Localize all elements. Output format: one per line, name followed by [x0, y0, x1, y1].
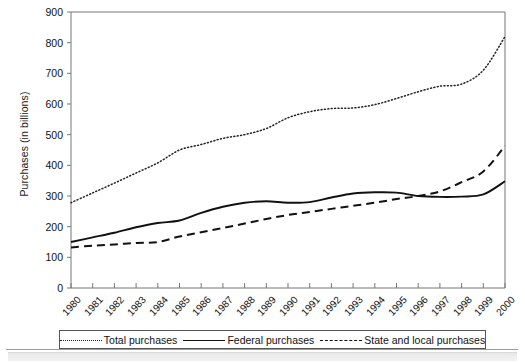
chart-legend: Total purchases Federal purchases State …	[59, 330, 486, 349]
legend-label-total: Total purchases	[104, 334, 180, 346]
legend-item-total: Total purchases	[58, 334, 180, 346]
chart-figure: Purchases (in billions) 9008007006005004…	[0, 0, 525, 362]
bottom-rule	[6, 349, 518, 350]
y-axis-ticks	[67, 12, 71, 288]
legend-item-state-local: State and local purchases	[318, 334, 487, 346]
bottom-gray-bar	[8, 352, 517, 361]
legend-label-federal: Federal purchases	[227, 334, 316, 346]
chart-plot-area	[0, 0, 525, 362]
solid-line-icon	[181, 335, 227, 345]
x-axis-ticks	[71, 283, 505, 288]
series-line-1	[71, 181, 505, 242]
dotted-line-icon	[58, 335, 104, 345]
series-line-0	[71, 37, 505, 203]
legend-label-state-local: State and local purchases	[364, 334, 487, 346]
axis-frame	[71, 12, 505, 288]
dashed-line-icon	[318, 335, 364, 345]
legend-item-federal: Federal purchases	[181, 334, 316, 346]
